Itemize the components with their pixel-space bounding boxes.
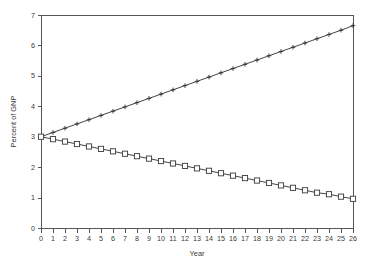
x-tick-label: 26 bbox=[349, 234, 357, 243]
marker-square bbox=[38, 134, 43, 139]
x-tick-label: 20 bbox=[277, 234, 285, 243]
y-tick-label: 3 bbox=[31, 132, 35, 141]
y-tick-label: 2 bbox=[31, 163, 35, 172]
marker-square bbox=[170, 161, 175, 166]
y-axis-title: Percent of GNP bbox=[9, 96, 18, 148]
marker-square bbox=[122, 151, 127, 156]
gnp-percent-line-chart: 0123456789101112131415161718192021222324… bbox=[0, 0, 371, 268]
x-tick-label: 21 bbox=[289, 234, 297, 243]
marker-square bbox=[302, 188, 307, 193]
chart-background bbox=[0, 0, 371, 268]
x-tick-label: 12 bbox=[181, 234, 189, 243]
x-tick-label: 3 bbox=[75, 234, 79, 243]
x-tick-label: 13 bbox=[193, 234, 201, 243]
marker-square bbox=[350, 196, 355, 201]
marker-square bbox=[314, 190, 319, 195]
x-tick-label: 24 bbox=[325, 234, 333, 243]
marker-square bbox=[206, 168, 211, 173]
x-tick-label: 11 bbox=[169, 234, 176, 243]
x-tick-label: 17 bbox=[241, 234, 249, 243]
marker-square bbox=[254, 178, 259, 183]
x-tick-label: 1 bbox=[51, 234, 55, 243]
marker-square bbox=[50, 137, 55, 142]
y-tick-label: 0 bbox=[31, 224, 35, 233]
y-tick-label: 4 bbox=[31, 102, 35, 111]
x-tick-label: 6 bbox=[111, 234, 115, 243]
marker-square bbox=[338, 194, 343, 199]
x-tick-label: 7 bbox=[123, 234, 127, 243]
x-tick-label: 22 bbox=[301, 234, 309, 243]
x-tick-label: 2 bbox=[63, 234, 67, 243]
marker-square bbox=[290, 185, 295, 190]
marker-square bbox=[194, 166, 199, 171]
y-tick-label: 1 bbox=[31, 193, 35, 202]
x-tick-label: 14 bbox=[205, 234, 213, 243]
marker-square bbox=[62, 139, 67, 144]
x-tick-label: 15 bbox=[217, 234, 225, 243]
marker-square bbox=[134, 154, 139, 159]
x-tick-label: 18 bbox=[253, 234, 261, 243]
x-tick-label: 4 bbox=[87, 234, 91, 243]
x-tick-label: 19 bbox=[265, 234, 273, 243]
x-tick-label: 25 bbox=[337, 234, 345, 243]
x-tick-label: 10 bbox=[157, 234, 165, 243]
y-tick-label: 7 bbox=[31, 11, 35, 20]
marker-square bbox=[242, 176, 247, 181]
chart-container: 0123456789101112131415161718192021222324… bbox=[0, 0, 371, 268]
x-tick-label: 23 bbox=[313, 234, 321, 243]
y-tick-label: 5 bbox=[31, 71, 35, 80]
x-tick-label: 16 bbox=[229, 234, 237, 243]
x-tick-label: 5 bbox=[99, 234, 103, 243]
marker-square bbox=[182, 163, 187, 168]
marker-square bbox=[74, 141, 79, 146]
marker-square bbox=[326, 192, 331, 197]
x-axis-title: Year bbox=[190, 249, 205, 258]
marker-square bbox=[98, 146, 103, 151]
x-tick-label: 0 bbox=[39, 234, 43, 243]
x-tick-label: 8 bbox=[135, 234, 139, 243]
marker-square bbox=[218, 171, 223, 176]
marker-square bbox=[266, 180, 271, 185]
marker-square bbox=[230, 173, 235, 178]
marker-square bbox=[278, 183, 283, 188]
marker-square bbox=[86, 144, 91, 149]
marker-square bbox=[146, 156, 151, 161]
marker-square bbox=[110, 149, 115, 154]
marker-square bbox=[158, 158, 163, 163]
y-tick-label: 6 bbox=[31, 41, 35, 50]
x-tick-label: 9 bbox=[147, 234, 151, 243]
